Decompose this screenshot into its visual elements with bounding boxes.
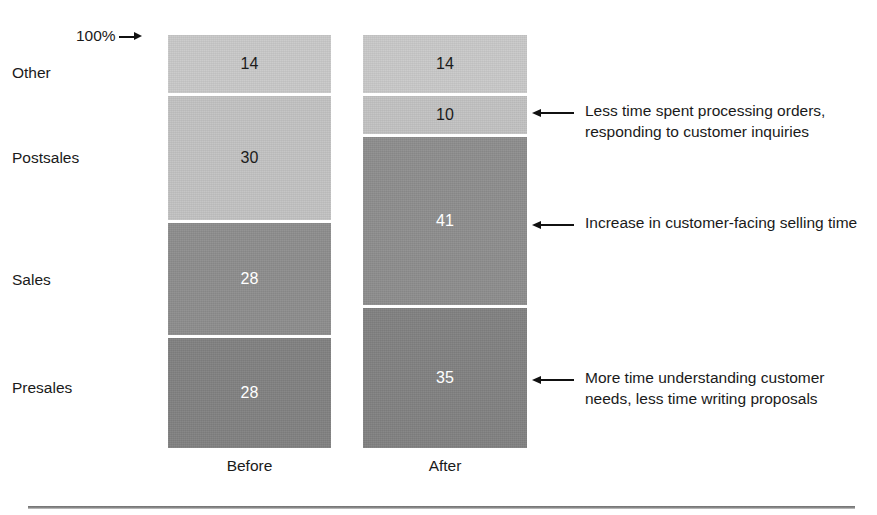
bar-value-before-sales: 28 xyxy=(240,271,258,287)
bottom-divider xyxy=(28,506,855,509)
bar-value-after-sales: 41 xyxy=(436,213,454,229)
bar-segment-before-other[interactable]: 14 xyxy=(168,35,331,93)
axis-marker-100-percent: 100% xyxy=(76,28,143,44)
bar-segment-before-presales[interactable]: 28 xyxy=(168,338,331,448)
arrow-left-icon xyxy=(532,220,574,230)
bar-column-after: 14 10 41 35 xyxy=(363,35,527,448)
row-label-sales: Sales xyxy=(12,272,162,288)
bar-value-after-other: 14 xyxy=(436,56,454,72)
bar-value-before-other: 14 xyxy=(240,56,258,72)
bar-value-before-postsales: 30 xyxy=(240,150,258,166)
bar-value-after-postsales: 10 xyxy=(436,107,454,123)
bar-column-before: 14 30 28 28 xyxy=(168,35,331,448)
chart-figure: 100% Other Postsales Sales Presales 14 3… xyxy=(0,0,877,515)
column-caption-after: After xyxy=(363,458,527,474)
arrow-left-icon xyxy=(532,108,574,118)
column-caption-before: Before xyxy=(168,458,331,474)
bar-segment-before-sales[interactable]: 28 xyxy=(168,223,331,335)
row-label-presales: Presales xyxy=(12,380,162,396)
bar-segment-after-presales[interactable]: 35 xyxy=(363,308,527,448)
bar-segment-before-postsales[interactable]: 30 xyxy=(168,96,331,220)
axis-marker-label: 100% xyxy=(76,27,116,44)
row-label-other: Other xyxy=(12,65,162,81)
arrow-left-icon xyxy=(532,375,574,385)
row-label-postsales: Postsales xyxy=(12,150,162,166)
bar-segment-after-other[interactable]: 14 xyxy=(363,35,527,93)
bar-segment-after-sales[interactable]: 41 xyxy=(363,137,527,305)
annotation-presales-text: More time understanding customer needs, … xyxy=(585,367,870,409)
annotation-postsales-text: Less time spent processing orders, respo… xyxy=(585,100,870,142)
arrow-right-icon xyxy=(119,32,143,41)
bar-value-after-presales: 35 xyxy=(436,370,454,386)
annotation-sales-text: Increase in customer-facing selling time xyxy=(585,212,870,233)
bar-value-before-presales: 28 xyxy=(240,385,258,401)
bar-segment-after-postsales[interactable]: 10 xyxy=(363,96,527,134)
